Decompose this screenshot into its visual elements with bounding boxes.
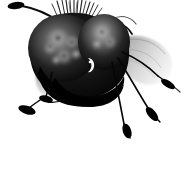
insect-illustration <box>0 0 184 182</box>
right-compound-eye <box>78 14 130 70</box>
illustration-canvas: Monochrome illustration of a fly seen he… <box>0 0 184 182</box>
